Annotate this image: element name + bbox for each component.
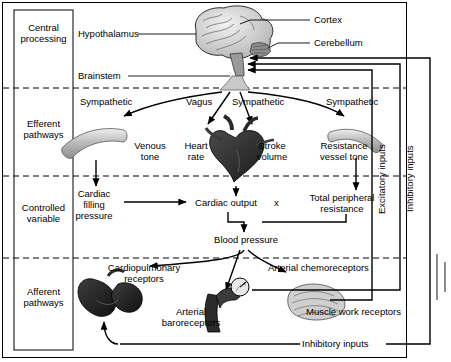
label-arterial-chemoreceptors: Arterial chemoreceptors (268, 262, 369, 273)
label-cerebellum: Cerebellum (314, 37, 363, 48)
label-heart-rate: Heart rate (176, 140, 216, 162)
label-cortex: Cortex (314, 14, 342, 25)
label-inhibitory-inputs-bottom: Inhibitory inputs (302, 338, 369, 349)
stage-afferent-pathways: Afferent pathways (16, 286, 71, 308)
stage-label: Efferent pathways (23, 118, 63, 140)
label-vagus: Vagus (186, 96, 212, 107)
label-arterial-baroreceptors: Arterial baroreceptors (160, 306, 222, 328)
stage-label: Central processing (21, 22, 67, 44)
label-muscle-work-receptors: Muscle work receptors (306, 306, 401, 317)
label-resistance-vessel-tone: Resistance vessel tone (308, 140, 380, 162)
stage-efferent-pathways: Efferent pathways (16, 118, 71, 140)
diagram-canvas: Central processing Efferent pathways Con… (0, 0, 451, 362)
label-brainstem: Brainstem (78, 70, 121, 81)
stage-controlled-variable: Controlled variable (16, 202, 71, 224)
label-venous-tone: Venous tone (126, 140, 174, 162)
label-cardiac-filling-pressure: Cardiac filling pressure (64, 188, 124, 221)
label-sympathetic-venous: Sympathetic (80, 96, 132, 107)
label-total-peripheral-resistance: Total peripheral resistance (296, 192, 388, 214)
stage-label: Controlled variable (22, 202, 65, 224)
label-hypothalamus: Hypothalamus (78, 28, 139, 39)
label-multiply: x (274, 197, 279, 208)
label-cardiopulmonary-receptors: Cardiopulmonary receptors (96, 262, 192, 284)
stage-central-processing: Central processing (16, 22, 71, 44)
label-sympathetic-stroke: Sympathetic (232, 96, 284, 107)
label-stroke-volume: Stroke volume (250, 140, 294, 162)
label-sympathetic-resistance: Sympathetic (326, 96, 378, 107)
stage-label: Afferent pathways (23, 286, 63, 308)
label-blood-pressure: Blood pressure (206, 234, 286, 245)
label-cardiac-output: Cardiac output (188, 197, 264, 208)
label-excitatory-inputs: Excitatory inputs (376, 124, 387, 234)
label-inhibitory-inputs-vertical: Inhibitory inputs (404, 124, 415, 234)
